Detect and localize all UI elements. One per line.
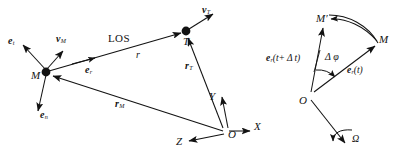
label-e-t-subscript: t — [12, 39, 14, 46]
label-point-T: T — [183, 36, 189, 47]
v-m-vector-arrow — [47, 51, 63, 69]
label-omega: Ω — [352, 134, 359, 144]
label-point-O-right: O — [299, 95, 307, 106]
label-r-m-subscript: M — [119, 102, 124, 109]
label-point-M-prime: M′ — [316, 13, 328, 24]
label-e-r-t-suffix: (t) — [354, 65, 363, 75]
label-v-t-subscript: T — [206, 8, 210, 15]
label-e-r-t-plus-delta-t-suffix: (t+ Δ t) — [273, 53, 300, 63]
v-t-vector-arrow — [189, 14, 213, 29]
delta-phi-angle-arc — [316, 70, 335, 77]
label-e-r-subscript: r — [89, 68, 92, 75]
label-range-r: r — [136, 50, 140, 60]
label-axis-Z: Z — [176, 136, 182, 147]
r-t-vector-arrow — [188, 38, 223, 128]
label-r-t: rT — [185, 61, 193, 72]
label-point-O: O — [228, 129, 236, 140]
delta-e-r-arc — [331, 19, 377, 41]
diagram-canvas — [0, 0, 400, 163]
label-e-n: en — [40, 110, 48, 121]
e-r-t-vector-arrow — [314, 46, 375, 92]
label-delta-phi: Δ φ — [325, 52, 339, 62]
omega-axis-line — [311, 100, 345, 143]
label-line-of-sight: LOS — [108, 33, 130, 44]
label-r-t-subscript: T — [189, 64, 193, 71]
e-r-vector-arrow — [72, 58, 95, 64]
label-point-M: M — [31, 70, 40, 81]
label-v-m: vM — [56, 34, 66, 45]
point-marker-M — [42, 68, 51, 77]
label-e-r: er — [85, 65, 92, 76]
label-v-t: vT — [202, 5, 210, 16]
label-e-r-t: er(t) — [347, 66, 363, 76]
label-e-t: et — [8, 36, 14, 47]
label-r-m: rM — [115, 99, 124, 110]
label-point-M-right: M — [379, 34, 388, 45]
y-axis-arrow — [222, 97, 228, 128]
label-axis-X: X — [254, 121, 261, 132]
label-e-r-t-plus-delta-t: er(t+ Δ t) — [266, 54, 300, 64]
z-axis-arrow — [189, 134, 224, 141]
label-e-n-subscript: n — [44, 113, 47, 120]
e-t-vector-arrow — [23, 45, 46, 70]
figure-root: et vM en er LOS r rT rM vT M T O X Y Z M… — [0, 0, 400, 163]
r-m-vector-arrow — [53, 76, 223, 131]
right-diagram-group — [311, 15, 378, 143]
label-v-m-subscript: M — [60, 37, 65, 44]
label-axis-Y: Y — [209, 91, 215, 102]
delta-phi-leader-line — [314, 50, 320, 72]
